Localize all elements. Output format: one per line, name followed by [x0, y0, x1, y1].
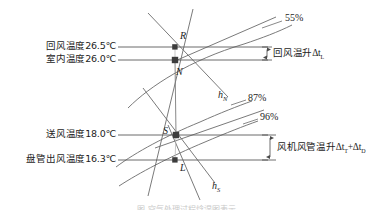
connector-S-L — [175, 135, 176, 160]
label-point-L: L — [180, 163, 186, 173]
marker-point-R — [172, 44, 177, 49]
process-line-S-up — [155, 110, 264, 148]
fan-duct-rise-delta-1: Δt — [336, 142, 344, 152]
return-air-rise-prefix: 回风温升 — [273, 47, 312, 58]
label-return-air-temp: 回风温度26.5℃ — [8, 41, 116, 51]
label-enthalpy-hS: hS — [212, 181, 220, 194]
return-air-rise-delta: Δt — [312, 48, 320, 58]
fan-duct-rise-sub-2: D — [361, 148, 365, 154]
label-coil-outlet-temp: 盘管出风温度16.3℃ — [2, 154, 116, 164]
label-fan-duct-rise: 风机风管温升ΔtT+ΔtD — [277, 142, 365, 154]
label-rh-87: 87% — [248, 93, 266, 103]
figure-caption: 图 空气处理过程焓湿图表示 — [0, 203, 373, 210]
label-return-air-rise: 回风温升ΔtL — [273, 48, 324, 60]
label-rh-96: 96% — [260, 112, 278, 122]
marker-point-N — [172, 57, 178, 63]
process-line-N-up — [175, 17, 276, 61]
enthalpy-hS-sub: S — [217, 186, 220, 193]
psychrometric-diagram — [0, 0, 373, 210]
label-rh-55: 55% — [285, 13, 303, 23]
label-point-S: S — [163, 126, 168, 136]
enthalpy-hN-sub: N — [223, 95, 227, 102]
label-enthalpy-hN: hN — [218, 90, 227, 103]
return-air-rise-sub: L — [321, 54, 324, 60]
rh-curve-55 — [128, 25, 292, 108]
label-supply-air-temp: 送风温度18.0℃ — [8, 129, 116, 139]
label-point-N: N — [176, 67, 183, 77]
label-point-R: R — [180, 31, 186, 41]
marker-point-S — [173, 132, 179, 138]
fan-duct-rise-prefix: 风机风管温升 — [277, 141, 336, 152]
rh-curve-87 — [116, 101, 252, 167]
label-room-temp: 室内温度26.0℃ — [8, 54, 116, 64]
figure-root: 回风温度26.5℃ 室内温度26.0℃ 送风温度18.0℃ 盘管出风温度16.3… — [0, 0, 373, 210]
fan-duct-rise-delta-2: Δt — [353, 142, 361, 152]
rh-curve-96 — [119, 121, 258, 186]
marker-point-L — [172, 157, 177, 162]
